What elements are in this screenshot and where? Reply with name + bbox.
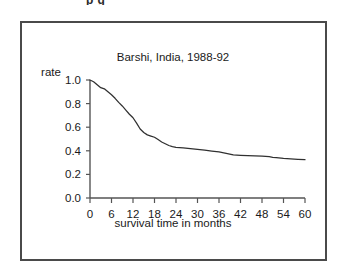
figure-frame: Barshi, India, 1988-92 rate survival tim… xyxy=(20,21,327,261)
cropped-caption-fragment: p g xyxy=(86,0,176,5)
y-tick-label: 1.0 xyxy=(65,74,81,86)
y-tick-label: 0.4 xyxy=(65,145,82,157)
y-tick-label: 0.8 xyxy=(65,98,81,110)
x-tick-label: 30 xyxy=(191,208,204,220)
y-tick-label: 0.0 xyxy=(65,192,81,204)
x-tick-label: 60 xyxy=(299,208,312,220)
x-tick-label: 12 xyxy=(127,208,140,220)
figure-page: p g Barshi, India, 1988-92 rate survival… xyxy=(0,0,346,276)
y-tick-label: 0.6 xyxy=(65,121,81,133)
x-tick-label: 24 xyxy=(170,208,183,220)
x-tick-mark-group xyxy=(90,198,305,203)
chart-title: Barshi, India, 1988-92 xyxy=(117,51,230,63)
survival-chart: Barshi, India, 1988-92 rate survival tim… xyxy=(22,23,325,259)
x-tick-label: 0 xyxy=(87,208,93,220)
x-tick-label: 6 xyxy=(108,208,114,220)
x-tick-label: 36 xyxy=(213,208,226,220)
x-tick-label: 42 xyxy=(234,208,247,220)
x-tick-label: 48 xyxy=(256,208,269,220)
survival-rate-curve xyxy=(90,80,305,160)
x-tick-label: 18 xyxy=(148,208,161,220)
x-tick-label: 54 xyxy=(277,208,290,220)
y-axis-label: rate xyxy=(41,66,61,78)
y-tick-label-group: 0.00.20.40.60.81.0 xyxy=(65,74,82,204)
y-tick-label: 0.2 xyxy=(65,168,81,180)
